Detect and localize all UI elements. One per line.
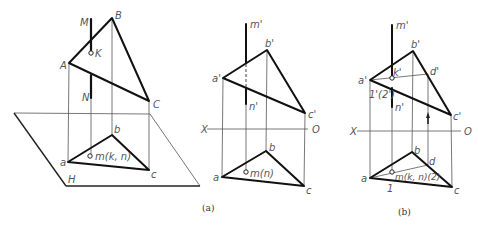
point-m	[244, 170, 248, 174]
projector-a	[68, 63, 69, 162]
figure-svg: M B K A N C b a c m(k, n) H m' b' a' n'	[0, 0, 478, 225]
label-c: c	[306, 185, 312, 196]
triangle-abc	[69, 18, 149, 101]
label-n-prime: n'	[395, 102, 404, 113]
h-plane-back-edge	[14, 113, 200, 186]
label-m-prime: m'	[250, 19, 263, 30]
label-1-2-prime: 1'(2')	[369, 89, 395, 100]
label-c-prime: c'	[453, 111, 461, 122]
label-M: M	[80, 17, 89, 28]
label-b: b	[414, 145, 420, 156]
label-a: a	[60, 157, 66, 168]
label-m-n: m(n)	[250, 168, 274, 179]
caption-b: (b)	[398, 207, 411, 217]
label-a: a	[361, 173, 367, 184]
projector-a	[222, 78, 223, 177]
label-O: O	[312, 124, 320, 135]
label-d-prime: d'	[430, 66, 439, 77]
point-m	[88, 154, 92, 158]
caption-a: (a)	[202, 203, 214, 213]
label-m-kn-2: m(k, n)(2)	[395, 172, 440, 182]
triangle-front	[223, 50, 305, 113]
label-c-prime: c'	[308, 109, 316, 120]
label-X: X	[200, 124, 209, 135]
label-n-prime: n'	[249, 101, 258, 112]
label-b: b	[269, 142, 275, 153]
spatial-view: M B K A N C b a c m(k, n) H	[14, 10, 200, 186]
projector-c	[304, 113, 305, 186]
label-b-prime: b'	[411, 39, 420, 50]
projector-c	[451, 115, 452, 187]
label-B: B	[115, 10, 122, 21]
label-k-prime: k'	[393, 67, 402, 78]
label-X: X	[349, 126, 358, 137]
point-k	[89, 51, 93, 55]
label-A: A	[59, 60, 67, 71]
label-a: a	[213, 172, 219, 183]
projection-a: m' b' a' n' c' X O b a c m(n) (a)	[200, 19, 320, 213]
figure-canvas: M B K A N C b a c m(k, n) H m' b' a' n'	[0, 0, 478, 225]
label-1: 1	[387, 183, 393, 194]
projection-b: m' b' k' d' a' 1'(2') n' c' X O b d a c …	[349, 20, 472, 217]
projector-b	[266, 50, 267, 151]
label-c: c	[454, 185, 460, 196]
label-c: c	[151, 169, 157, 180]
label-m-prime: m'	[396, 20, 409, 31]
label-m-kn: m(k, n)	[95, 151, 131, 162]
label-K: K	[95, 48, 103, 59]
label-O: O	[464, 126, 472, 137]
label-b: b	[114, 124, 120, 135]
arrow-up-icon	[426, 112, 430, 118]
projector-b	[412, 51, 413, 152]
label-a-prime: a'	[358, 75, 367, 86]
label-a-prime: a'	[212, 73, 221, 84]
label-H: H	[68, 174, 76, 185]
label-N: N	[82, 92, 90, 103]
label-C: C	[153, 99, 160, 110]
label-d: d	[429, 156, 436, 167]
point-m	[390, 170, 394, 174]
label-b-prime: b'	[265, 38, 274, 49]
triangle-front	[370, 51, 451, 115]
h-plane-left-edge	[14, 113, 66, 186]
